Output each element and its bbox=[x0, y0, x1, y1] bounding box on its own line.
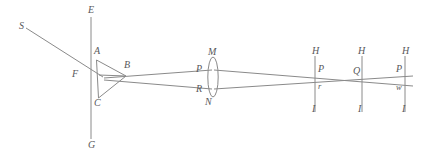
label-screen3-bottom-i: I bbox=[402, 104, 405, 114]
label-screen3-upper-p: P bbox=[396, 64, 402, 74]
label-screen1-bottom-i: I bbox=[312, 104, 315, 114]
label-screen1-lower-r: r bbox=[318, 82, 321, 91]
label-aperture-f: F bbox=[72, 69, 78, 79]
label-screen2-bottom-i: I bbox=[358, 104, 361, 114]
diagram-canvas bbox=[0, 0, 426, 161]
label-lens-lower-r: R bbox=[196, 84, 202, 94]
prism-triangle-abc bbox=[97, 60, 127, 98]
optics-diagram: S E G F A B C M N P R H I P r H I Q H I … bbox=[0, 0, 426, 161]
label-screen-bottom-g: G bbox=[88, 140, 95, 150]
label-lens-top-m: M bbox=[208, 47, 216, 57]
label-prism-a: A bbox=[94, 46, 100, 56]
label-screen1-top-h: H bbox=[312, 46, 319, 56]
label-prism-c: C bbox=[94, 98, 101, 108]
label-screen1-upper-p: P bbox=[318, 64, 324, 74]
label-screen2-cross-q: Q bbox=[353, 66, 360, 76]
label-lens-bottom-n: N bbox=[205, 97, 212, 107]
label-prism-b: B bbox=[124, 60, 130, 70]
label-screen-top-e: E bbox=[88, 5, 94, 15]
label-lens-upper-p: P bbox=[196, 64, 202, 74]
label-screen3-lower-w: w bbox=[396, 83, 402, 92]
label-screen3-top-h: H bbox=[402, 46, 409, 56]
converging-lens bbox=[208, 57, 218, 97]
label-source-s: S bbox=[19, 21, 24, 31]
label-screen2-top-h: H bbox=[358, 46, 365, 56]
prism-internal-ray bbox=[99, 75, 126, 76]
